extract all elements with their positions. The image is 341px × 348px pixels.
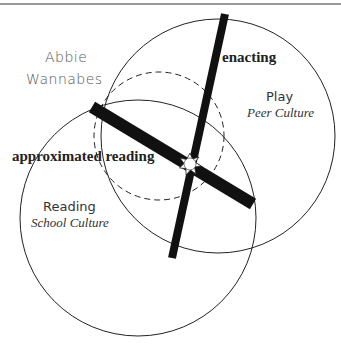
enacting-label: enacting — [222, 49, 276, 66]
reading-subtitle: School Culture — [31, 215, 109, 231]
play-subtitle: Peer Culture — [247, 105, 314, 121]
reading-title: Reading — [43, 199, 96, 214]
enacting-axis-bar — [172, 14, 225, 258]
play-title: Play — [266, 89, 293, 104]
group-label-line1: Abbie — [45, 49, 87, 65]
approximated-reading-label: approximated reading — [12, 148, 154, 165]
group-label-line2: Wannabes — [26, 71, 103, 87]
